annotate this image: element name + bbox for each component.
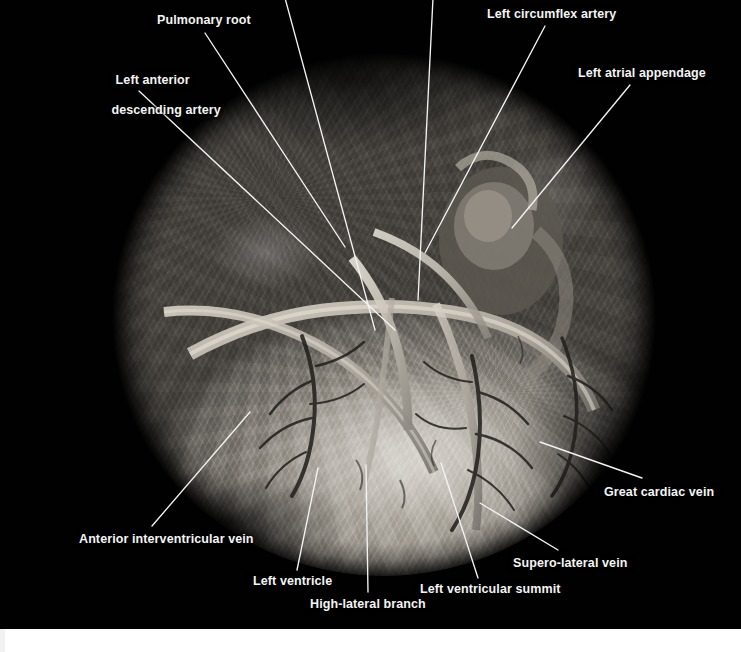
specimen-photo-panel: Pulmonary root Left anterior descending …	[0, 0, 741, 629]
label-left-anterior-descending-artery: Left anterior descending artery	[90, 58, 194, 133]
page-left-margin	[0, 629, 5, 652]
small-vessel-speckles	[356, 336, 523, 508]
label-left-ventricle: Left ventricle	[253, 574, 332, 589]
supero-lateral-vein-vessel	[436, 304, 478, 530]
label-left-circumflex-artery: Left circumflex artery	[487, 7, 616, 22]
label-line-2: descending artery	[111, 103, 220, 117]
label-line-1: Left anterior	[116, 73, 190, 87]
label-left-ventricular-summit: Left ventricular summit	[420, 582, 561, 597]
label-pulmonary-root: Pulmonary root	[157, 13, 251, 28]
page-footer-strip	[0, 629, 741, 652]
label-great-cardiac-vein: Great cardiac vein	[604, 485, 714, 500]
label-anterior-interventricular-vein: Anterior interventricular vein	[79, 532, 254, 547]
label-left-atrial-appendage: Left atrial appendage	[578, 66, 706, 81]
label-high-lateral-branch: High-lateral branch	[310, 597, 426, 612]
label-supero-lateral-vein: Supero-lateral vein	[513, 556, 627, 571]
anatomy-figure: Pulmonary root Left anterior descending …	[0, 0, 741, 652]
